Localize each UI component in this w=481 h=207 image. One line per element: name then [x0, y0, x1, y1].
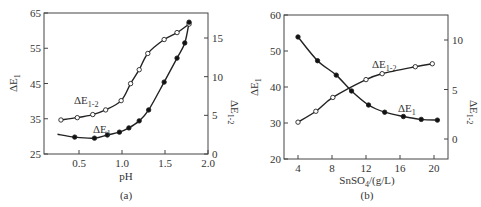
y-tick-label: 40 — [270, 81, 282, 93]
x-tick-label: 0.5 — [72, 157, 86, 169]
y2-tick-label: 0 — [212, 148, 218, 160]
filled-circle-marker — [419, 117, 423, 121]
caption-b: (b) — [361, 189, 374, 202]
x-tick-label: 16 — [395, 162, 407, 174]
y-tick-label: 20 — [270, 153, 282, 165]
y2-tick-label: 5 — [212, 109, 218, 121]
open-circle-marker — [137, 68, 141, 72]
filled-circle-marker — [334, 73, 338, 77]
y2-axis-label-a: ΔE1-2 — [226, 100, 241, 124]
x-tick-label: 12 — [361, 162, 372, 174]
open-circle-marker — [296, 120, 300, 124]
filled-circle-marker — [383, 110, 387, 114]
y2-tick-label: 0 — [452, 133, 458, 145]
open-circle-marker — [75, 115, 79, 119]
figure-canvas: 0.51.01.52.0 2535455565 051015 ΔE1 ΔE1-2… — [0, 0, 481, 207]
x-axis-label-b: SnSO4/(g/L) — [339, 174, 395, 189]
y-tick-label: 30 — [270, 117, 282, 129]
y-tick-label: 65 — [30, 7, 42, 19]
y2-tick-label: 10 — [212, 71, 224, 83]
open-circle-marker — [413, 65, 417, 69]
filled-circle-marker — [175, 56, 179, 60]
filled-circle-marker — [349, 89, 353, 93]
y-tick-label: 45 — [30, 78, 42, 90]
data-points-b — [296, 35, 440, 125]
filled-circle-marker — [73, 135, 77, 139]
filled-circle-marker — [92, 136, 96, 140]
y2-tick-label: 5 — [452, 84, 458, 96]
filled-circle-marker — [401, 114, 405, 118]
y2-tick-label: 15 — [212, 32, 224, 44]
open-circle-marker — [91, 112, 95, 116]
y2-tick-label: 10 — [452, 34, 464, 46]
y2-ticks-a: 051015 — [204, 32, 224, 160]
x-tick-label: 4 — [295, 162, 301, 174]
open-circle-marker — [146, 51, 150, 55]
annotation-e1-b: ΔE1 — [398, 102, 416, 117]
open-circle-marker — [103, 108, 107, 112]
curve-e1-a — [58, 22, 190, 138]
open-circle-marker — [59, 118, 63, 122]
filled-circle-marker — [146, 108, 150, 112]
y-tick-label: 25 — [30, 148, 42, 160]
x-ticks-b: 48121620 — [295, 155, 440, 174]
annotation-e1-a: ΔE1 — [93, 123, 111, 138]
y-tick-label: 55 — [30, 42, 42, 54]
x-tick-label: 1.0 — [115, 157, 129, 169]
filled-circle-marker — [366, 103, 370, 107]
open-circle-marker — [314, 109, 318, 113]
annotation-e12-a: ΔE1-2 — [74, 94, 98, 109]
plot-frame-a — [44, 13, 208, 154]
x-axis-label-a: pH — [119, 170, 133, 182]
y-axis-label-b: ΔE1 — [248, 78, 263, 96]
y2-ticks-b: 0510 — [444, 34, 464, 145]
open-circle-marker — [430, 62, 434, 66]
y-tick-label: 50 — [270, 45, 282, 57]
open-circle-marker — [331, 95, 335, 99]
open-circle-marker — [119, 98, 123, 102]
filled-circle-marker — [187, 20, 191, 24]
open-circle-marker — [364, 77, 368, 81]
open-circle-marker — [128, 81, 132, 85]
annotation-e12-b: ΔE1-2 — [372, 58, 396, 73]
open-circle-marker — [380, 71, 384, 75]
y2-axis-label-b: ΔE1-2 — [465, 100, 480, 124]
filled-circle-marker — [137, 119, 141, 123]
filled-circle-marker — [315, 59, 319, 63]
open-circle-marker — [162, 37, 166, 41]
data-points-a — [59, 20, 192, 140]
chart-b: 48121620 2030405060 0510 ΔE1 ΔE1-2 SnSO4… — [248, 9, 480, 202]
y-tick-label: 35 — [30, 113, 42, 125]
y-ticks-a: 2535455565 — [30, 7, 48, 160]
plot-frame-b — [284, 15, 448, 159]
filled-circle-marker — [127, 126, 131, 130]
x-ticks-a: 0.51.01.52.0 — [72, 150, 215, 169]
x-tick-label: 20 — [429, 162, 441, 174]
caption-a: (a) — [120, 189, 133, 202]
x-tick-label: 8 — [329, 162, 335, 174]
filled-circle-marker — [435, 118, 439, 122]
y-tick-label: 60 — [270, 9, 282, 21]
filled-circle-marker — [296, 35, 300, 39]
filled-circle-marker — [162, 80, 166, 84]
filled-circle-marker — [117, 130, 121, 134]
filled-circle-marker — [183, 41, 187, 45]
y-ticks-b: 2030405060 — [270, 9, 288, 165]
x-tick-label: 1.5 — [158, 157, 172, 169]
y-axis-label-a: ΔE1 — [7, 74, 22, 92]
open-circle-marker — [175, 30, 179, 34]
chart-a: 0.51.01.52.0 2535455565 051015 ΔE1 ΔE1-2… — [7, 7, 241, 202]
